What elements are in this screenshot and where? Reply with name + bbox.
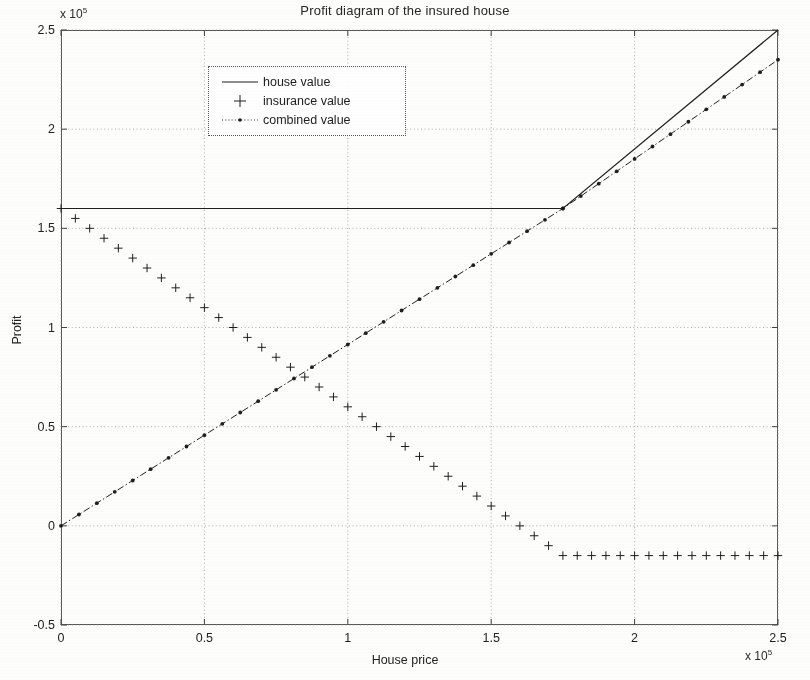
data-point <box>100 234 108 242</box>
data-point <box>731 551 739 559</box>
data-point <box>758 70 762 74</box>
data-point <box>543 218 547 222</box>
data-point <box>113 490 117 494</box>
x-tick-label: 0.5 <box>196 631 213 645</box>
data-point <box>215 313 223 321</box>
data-point <box>471 263 475 267</box>
legend-item: house value <box>217 72 397 91</box>
data-point <box>561 207 565 211</box>
chart-legend[interactable]: house value insurance value combined val… <box>208 66 406 136</box>
series-canvas <box>61 30 778 625</box>
data-point <box>157 274 165 282</box>
data-point <box>114 244 122 252</box>
y-axis-tick-labels: -0.500.511.522.5 <box>0 0 55 680</box>
data-point <box>400 309 404 313</box>
data-point <box>149 467 153 471</box>
data-point <box>759 551 767 559</box>
data-point <box>453 275 457 279</box>
chart-title: Profit diagram of the insured house <box>0 3 810 18</box>
y-tick-label: 2 <box>48 122 55 136</box>
data-point <box>229 323 237 331</box>
data-point <box>200 303 208 311</box>
data-point <box>430 462 438 470</box>
data-point <box>387 432 395 440</box>
data-point <box>167 456 171 460</box>
data-point <box>172 284 180 292</box>
data-point <box>722 95 726 99</box>
x-axis-tick-labels: 00.511.522.5 <box>0 631 810 651</box>
data-point <box>203 433 207 437</box>
data-point <box>489 252 493 256</box>
data-point <box>272 353 280 361</box>
data-point <box>131 479 135 483</box>
x-tick-label: 2.5 <box>769 631 786 645</box>
legend-label-insurance-value: insurance value <box>263 94 351 108</box>
data-point <box>401 442 409 450</box>
y-tick-label: -0.5 <box>33 618 55 632</box>
data-point <box>774 551 782 559</box>
data-point <box>286 363 294 371</box>
data-point <box>516 522 524 530</box>
data-point <box>507 241 511 245</box>
data-point <box>57 204 65 212</box>
data-point <box>364 331 368 335</box>
data-point <box>651 145 655 149</box>
data-point <box>372 422 380 430</box>
legend-label-house-value: house value <box>263 75 330 89</box>
data-point <box>315 383 323 391</box>
data-point <box>544 541 552 549</box>
data-point <box>615 169 619 173</box>
data-point <box>487 502 495 510</box>
data-point <box>328 354 332 358</box>
data-point <box>525 229 529 233</box>
legend-key-plus-marker <box>217 95 263 107</box>
data-point <box>716 551 724 559</box>
data-point <box>418 297 422 301</box>
legend-key-dash-dot-marker <box>217 115 263 125</box>
data-point <box>186 294 194 302</box>
data-point <box>415 452 423 460</box>
data-point <box>292 377 296 381</box>
x-axis-title: House price <box>0 653 810 667</box>
data-point <box>95 501 99 505</box>
y-tick-label: 1 <box>48 321 55 335</box>
data-point <box>659 551 667 559</box>
data-point <box>673 551 681 559</box>
data-point <box>688 551 696 559</box>
data-point <box>559 551 567 559</box>
series-insurance-value <box>57 204 782 559</box>
data-point <box>444 472 452 480</box>
y-tick-label: 0 <box>48 519 55 533</box>
x-tick-label: 1.5 <box>482 631 499 645</box>
x-tick-label: 0 <box>58 631 65 645</box>
data-point <box>702 551 710 559</box>
data-point <box>745 551 753 559</box>
data-point <box>238 411 242 415</box>
y-tick-label: 1.5 <box>38 221 55 235</box>
data-point <box>344 403 352 411</box>
data-point <box>329 393 337 401</box>
data-point <box>776 58 780 62</box>
data-point <box>579 194 583 198</box>
series-house-value <box>61 30 778 209</box>
y-tick-label: 2.5 <box>38 23 55 37</box>
data-point <box>473 492 481 500</box>
data-point <box>669 132 673 136</box>
data-point <box>573 551 581 559</box>
data-point <box>630 551 638 559</box>
data-point <box>59 524 63 528</box>
y-axis-title: Profit <box>10 315 24 344</box>
figure-canvas: Profit diagram of the insured house x 10… <box>0 0 810 680</box>
y-multiplier-exponent: 5 <box>83 6 87 15</box>
data-point <box>310 365 314 369</box>
legend-label-combined-value: combined value <box>263 113 351 127</box>
data-point <box>258 343 266 351</box>
data-point <box>501 512 509 520</box>
data-point <box>436 286 440 290</box>
data-point <box>220 422 224 426</box>
y-tick-label: 0.5 <box>38 420 55 434</box>
data-point <box>616 551 624 559</box>
data-point <box>274 388 278 392</box>
data-point <box>185 445 189 449</box>
data-point <box>602 551 610 559</box>
